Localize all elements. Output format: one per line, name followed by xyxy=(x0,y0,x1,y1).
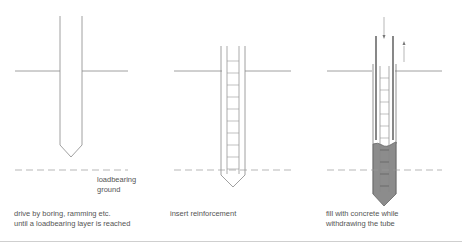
step-3-caption: fill with concrete while withdrawing the… xyxy=(326,209,399,229)
loadbearing-label-line2: ground xyxy=(97,185,136,195)
step-3-drawing xyxy=(327,17,442,206)
caption-line: drive by boring, ramming etc. xyxy=(14,209,130,219)
step-1-drawing xyxy=(15,16,128,170)
caption-line: insert reinforcement xyxy=(170,209,236,219)
step-2-drawing xyxy=(174,46,291,187)
step-1-caption: drive by boring, ramming etc. until a lo… xyxy=(14,209,130,229)
loadbearing-ground-label: loadbearing ground xyxy=(97,175,136,195)
casing-tube xyxy=(60,16,82,157)
reinforcement-ties xyxy=(380,78,389,138)
loadbearing-label-line1: loadbearing xyxy=(97,175,136,185)
arrow-down-icon xyxy=(383,17,386,39)
caption-line: withdrawing the tube xyxy=(326,219,399,229)
arrow-up-icon xyxy=(403,41,406,62)
caption-line: fill with concrete while xyxy=(326,209,399,219)
casing-tube xyxy=(221,46,245,187)
caption-line: until a loadbearing layer is reached xyxy=(14,219,130,229)
step-2-caption: insert reinforcement xyxy=(170,209,236,219)
bottom-divider xyxy=(0,241,462,242)
reinforcement-ties xyxy=(227,61,239,169)
